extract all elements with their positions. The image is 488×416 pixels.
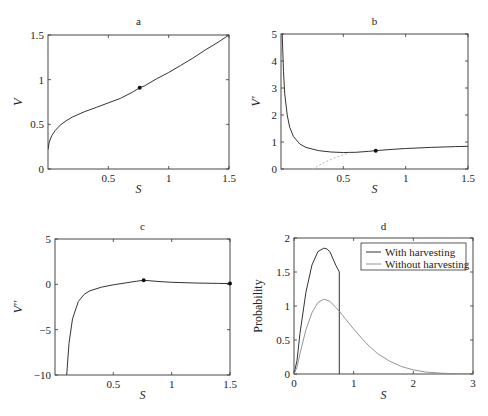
data-marker — [138, 86, 142, 90]
x-tick-label: 2 — [411, 377, 417, 389]
x-tick-label: 1.5 — [223, 378, 237, 390]
y-tick-label: 3 — [272, 82, 278, 94]
x-tick-label: 0.5 — [336, 172, 350, 184]
panel-title: a — [136, 15, 141, 27]
x-tick-label: 1.5 — [222, 172, 236, 184]
y-tick-label: 0.5 — [30, 118, 44, 130]
y-tick-label: 0 — [46, 278, 52, 290]
y-tick-label: 4 — [272, 55, 278, 67]
y-tick-label: 5 — [46, 233, 52, 245]
x-tick-label: 1.5 — [461, 172, 475, 184]
x-tick-label: 0.5 — [106, 378, 120, 390]
data-marker — [142, 278, 146, 282]
series-with-harvesting — [294, 248, 339, 374]
panel-a: a0.511.500.511.5SV — [11, 15, 236, 196]
x-axis-label: S — [140, 388, 146, 402]
legend: With harvestingWithout harvesting — [361, 243, 470, 270]
legend-label: With harvesting — [385, 246, 456, 258]
panel-d: d012300.511.52SProbabilityWith harvestin… — [251, 220, 476, 402]
y-axis-label: V'' — [11, 300, 25, 313]
series-v — [48, 35, 229, 149]
y-tick-label: 2 — [272, 109, 278, 121]
x-tick-label: 0.5 — [101, 172, 115, 184]
figure: a0.511.500.511.5SVb0.511.5012345SV'c0.51… — [0, 0, 488, 416]
y-tick-label: 0 — [39, 163, 45, 175]
panel-c: c0.511.5−10−505SV'' — [11, 220, 237, 402]
x-tick-label: 1 — [166, 172, 172, 184]
y-tick-label: 1.5 — [276, 266, 290, 278]
y-tick-label: 0 — [272, 163, 278, 175]
x-axis-label: S — [372, 182, 378, 196]
x-axis-label: S — [381, 388, 387, 402]
y-tick-label: 1 — [285, 300, 291, 312]
y-tick-label: 0.5 — [276, 334, 290, 346]
axes-frame — [48, 35, 229, 169]
y-tick-label: 5 — [272, 28, 278, 40]
x-tick-label: 1 — [351, 377, 357, 389]
x-tick-label: 0 — [291, 377, 297, 389]
series-v- — [282, 34, 468, 153]
axes-frame — [281, 34, 468, 169]
legend-label: Without harvesting — [385, 258, 470, 270]
y-tick-label: 1 — [39, 74, 45, 86]
x-axis-label: S — [136, 182, 142, 196]
series-without-harvesting — [294, 299, 473, 374]
panel-b: b0.511.5012345SV' — [249, 15, 475, 196]
y-axis-label: Probability — [251, 279, 265, 332]
series-dotted — [312, 153, 349, 169]
axes-frame — [55, 239, 230, 375]
data-marker — [374, 149, 378, 153]
y-tick-label: −5 — [39, 324, 51, 336]
y-tick-label: 1 — [272, 136, 278, 148]
x-tick-label: 1 — [169, 378, 175, 390]
y-tick-label: 1.5 — [30, 29, 44, 41]
y-tick-label: 2 — [285, 232, 291, 244]
x-tick-label: 1 — [403, 172, 409, 184]
y-axis-label: V — [11, 97, 25, 106]
panel-title: d — [381, 220, 387, 232]
y-axis-label: V' — [249, 96, 263, 106]
y-tick-label: 0 — [285, 368, 291, 380]
panel-title: b — [372, 15, 378, 27]
panel-title: c — [140, 220, 145, 232]
data-marker — [228, 282, 232, 286]
x-tick-label: 3 — [470, 377, 476, 389]
y-tick-label: −10 — [34, 369, 52, 381]
series-v- — [67, 280, 230, 375]
